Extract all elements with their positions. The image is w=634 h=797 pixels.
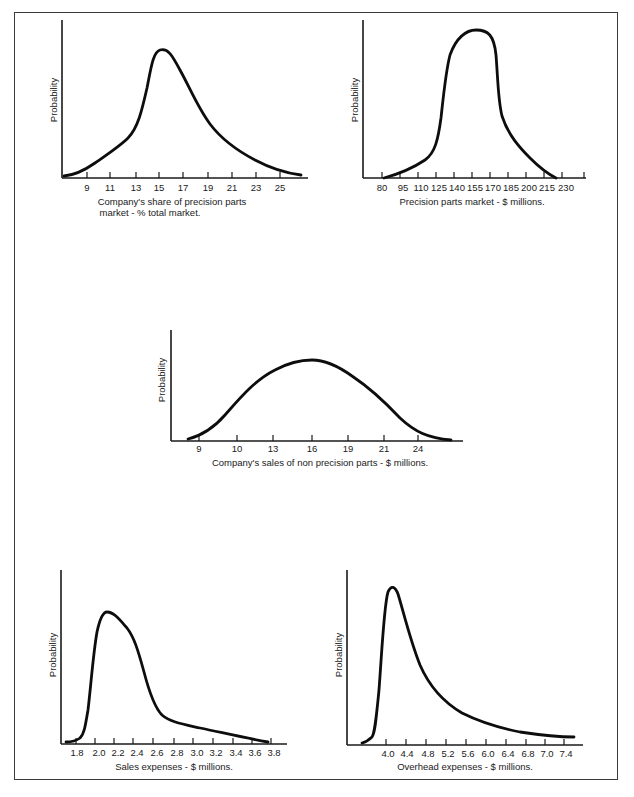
tick-label: 23: [251, 182, 262, 193]
y-axis-label: Probability: [333, 633, 344, 678]
tick-label: 15: [154, 182, 165, 193]
x-axis-label: Sales expenses - $ millions.: [115, 761, 233, 772]
x-ticks: [87, 172, 280, 178]
tick-label: 230: [558, 182, 574, 193]
tick-label: 13: [131, 182, 142, 193]
tick-label: 4.0: [381, 748, 394, 759]
y-axis-label: Probability: [156, 358, 167, 403]
tick-label: 2.8: [170, 747, 183, 758]
tick-label: 5.2: [441, 748, 454, 759]
tick-label: 1.8: [70, 747, 83, 758]
figure-canvas: 9 11 13 15 17 19 21 23 25 Company's shar…: [0, 0, 634, 797]
tick-label: 170: [485, 182, 501, 193]
tick-label: 10: [232, 443, 243, 454]
tick-label: 2.4: [130, 747, 143, 758]
y-axis-label: Probability: [48, 78, 59, 123]
tick-label: 140: [449, 182, 465, 193]
tick-label: 155: [467, 182, 483, 193]
tick-label: 3.2: [209, 747, 222, 758]
chart-sales-expenses: 1.8 2.0 2.2 2.4 2.6 2.8 3.0 3.2 3.4 3.6 …: [47, 570, 287, 772]
y-axis-label: Probability: [47, 633, 58, 678]
distribution-curve: [188, 360, 451, 440]
tick-label: 3.6: [248, 747, 261, 758]
chart-company-share: 9 11 13 15 17 19 21 23 25 Company's shar…: [48, 20, 308, 218]
tick-label: 3.8: [267, 747, 280, 758]
tick-label: 185: [503, 182, 519, 193]
tick-label: 19: [203, 182, 214, 193]
x-axis-label-line2: market - % total market.: [100, 207, 201, 218]
tick-label: 3.0: [190, 747, 203, 758]
x-axis-label: Company's share of precision parts: [98, 196, 247, 207]
x-axis-label: Company's sales of non precision parts -…: [212, 457, 428, 468]
tick-label: 24: [413, 443, 424, 454]
tick-label: 19: [343, 443, 354, 454]
x-axis-label: Precision parts market - $ millions.: [399, 196, 544, 207]
tick-label: 95: [398, 182, 409, 193]
tick-label: 16: [307, 443, 318, 454]
tick-label: 6.4: [501, 748, 514, 759]
tick-label: 7.4: [559, 748, 572, 759]
tick-label: 9: [84, 182, 89, 193]
tick-label: 80: [377, 182, 388, 193]
distribution-curve: [384, 30, 556, 178]
tick-label: 3.4: [229, 747, 242, 758]
distribution-curve: [362, 587, 574, 743]
chart-non-precision-sales: 9 10 13 16 19 21 24 Company's sales of n…: [156, 330, 463, 468]
chart-precision-market: 80 95 110 125 140 155 170 185 200 215 23…: [349, 20, 586, 207]
tick-label: 2.6: [150, 747, 163, 758]
tick-label: 9: [196, 443, 201, 454]
tick-label: 13: [268, 443, 279, 454]
tick-label: 200: [521, 182, 537, 193]
tick-label: 2.0: [92, 747, 105, 758]
chart-overhead-expenses: 4.0 4.4 4.8 5.2 5.6 6.0 6.4 6.8 7.0 7.4 …: [333, 570, 583, 772]
y-axis-label: Probability: [349, 78, 360, 123]
tick-label: 7.0: [540, 748, 553, 759]
tick-label: 21: [227, 182, 238, 193]
x-ticks: [199, 435, 418, 441]
tick-label: 4.4: [400, 748, 413, 759]
distribution-curve: [66, 612, 268, 742]
tick-label: 215: [539, 182, 555, 193]
tick-label: 4.8: [421, 748, 434, 759]
tick-label: 25: [275, 182, 286, 193]
tick-label: 2.2: [111, 747, 124, 758]
x-ticks: [76, 738, 271, 744]
x-ticks: [386, 739, 564, 745]
tick-label: 6.0: [481, 748, 494, 759]
tick-label: 5.6: [461, 748, 474, 759]
tick-label: 110: [413, 182, 428, 193]
x-axis-label: Overhead expenses - $ millions.: [397, 761, 533, 772]
tick-label: 17: [178, 182, 189, 193]
tick-label: 125: [431, 182, 447, 193]
distribution-curve: [64, 50, 301, 176]
tick-label: 21: [379, 443, 390, 454]
tick-label: 11: [105, 182, 115, 193]
tick-label: 6.8: [521, 748, 534, 759]
